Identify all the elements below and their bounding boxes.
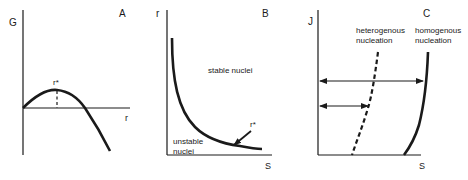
panel-c-homogenous-label-2: nucleation [415,36,451,45]
panel-b-unstable-region-label-1: unstable [173,137,204,146]
panel-a-y-label: G [9,17,17,28]
nucleation-diagram: G r r* A r S B stable nuclei unstable nu… [0,0,468,180]
panel-b-x-label: S [265,161,271,171]
panel-b: r S B stable nuclei unstable nuclei r* [156,8,272,171]
panel-c-heterogenous-curve [352,52,378,155]
panel-b-y-label: r [156,8,160,19]
panel-c-heterogenous-label-2: nucleation [356,36,392,45]
panel-c-x-label: S [419,161,425,171]
panel-b-unstable-region-label-2: nuclei [173,147,194,156]
panel-a-x-label: r [125,113,128,123]
panel-a-free-energy-curve [23,90,110,151]
panel-c-homogenous-label-1: homogenous [415,26,461,35]
panel-b-stable-region-label: stable nuclei [208,66,253,75]
panel-a-critical-label: r* [53,78,59,87]
panel-c-y-label: J [308,16,313,27]
panel-c-title: C [423,8,430,19]
panel-b-title: B [262,8,269,19]
panel-c: J S C heterogenous nucleation homogenous… [308,8,461,171]
panel-c-homogenous-curve [404,52,428,155]
panel-a-title: A [119,8,126,19]
panel-c-heterogenous-label-1: heterogenous [356,26,405,35]
panel-a: G r r* A [9,8,130,155]
panel-b-critical-pointer-arrow [234,131,251,145]
panel-b-critical-label: r* [250,120,256,129]
